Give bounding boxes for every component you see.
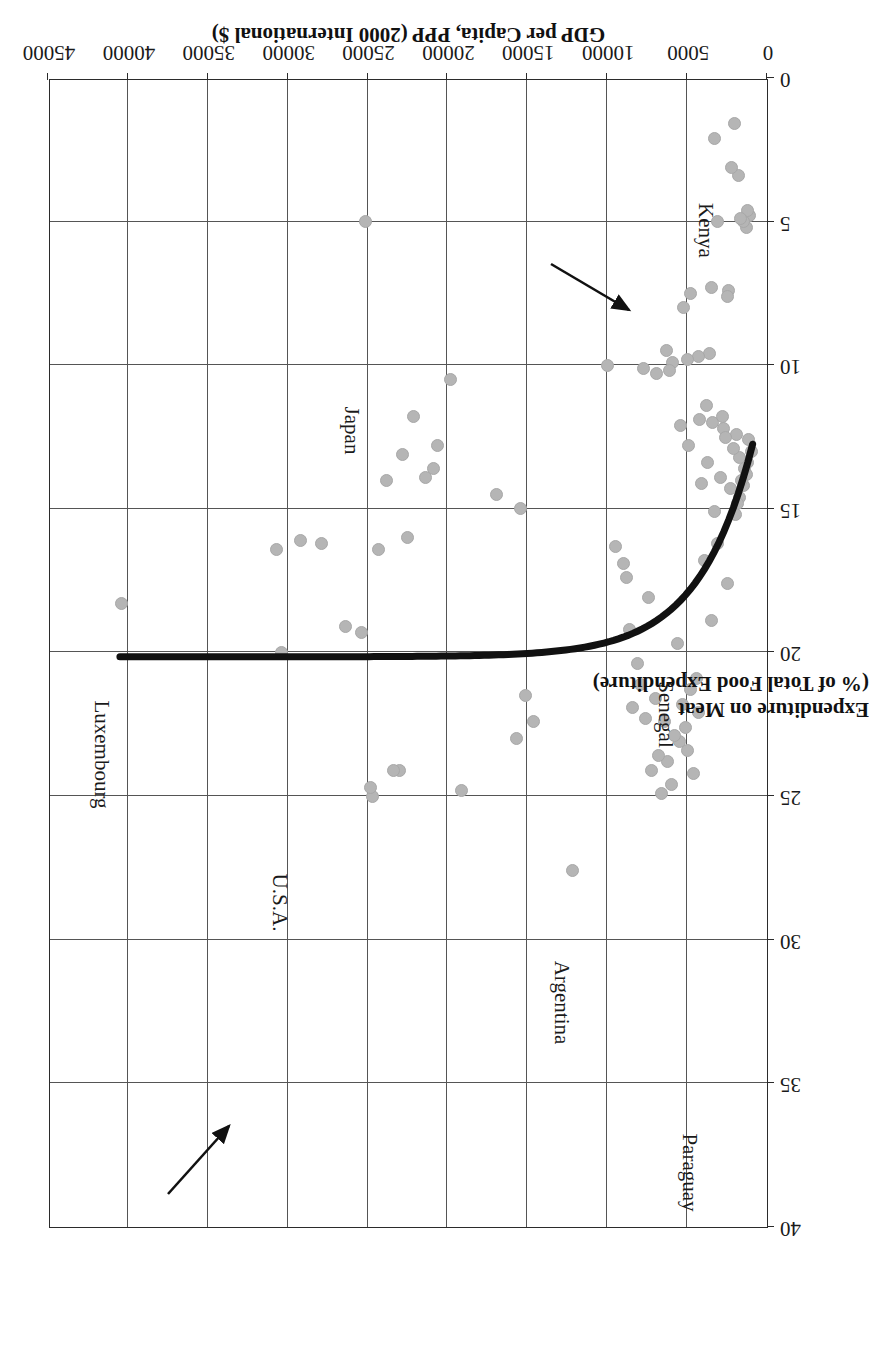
- trend-curve-layer: [48, 78, 767, 1227]
- y-axis-tick-label: 20: [780, 641, 818, 666]
- y-axis-tick: [767, 508, 774, 509]
- country-label-senegal: Senegal: [653, 681, 678, 747]
- country-label-argentina: Argentina: [549, 961, 574, 1045]
- y-axis-tick: [767, 1082, 774, 1083]
- y-axis-tick: [767, 364, 774, 365]
- y-axis-tick-label: 35: [780, 1072, 818, 1097]
- y-axis-tick: [767, 652, 774, 653]
- country-label-luxembourg: Luxembourg: [90, 700, 115, 808]
- country-label-paraguay: Paraguay: [677, 1134, 702, 1212]
- y-axis-tick-label: 0: [780, 67, 818, 92]
- y-axis-tick: [767, 221, 774, 222]
- y-axis-title-line2: (% of Total Food Expenditure): [779, 671, 869, 697]
- y-axis-tick-label: 40: [780, 1216, 818, 1241]
- country-label-usa: U.S.A.: [267, 873, 292, 931]
- y-axis-tick: [767, 939, 774, 940]
- y-axis-tick-label: 30: [780, 928, 818, 953]
- y-axis-tick: [767, 77, 774, 78]
- y-axis-tick-label: 5: [780, 210, 818, 235]
- y-axis-tick: [767, 1226, 774, 1227]
- plot-area: [49, 79, 768, 1228]
- y-axis-title: Expenditure on Meat (% of Total Food Exp…: [779, 671, 869, 724]
- chart-figure: 0500010000150002000025000300003500040000…: [0, 0, 869, 1363]
- y-axis-tick-label: 25: [780, 785, 818, 810]
- y-axis-title-line1: Expenditure on Meat: [779, 697, 869, 723]
- y-axis-tick-label: 15: [780, 497, 818, 522]
- y-axis-tick: [767, 795, 774, 796]
- y-axis-tick-label: 10: [780, 354, 818, 379]
- x-axis-title: GDP per Capita, PPP (2000 International …: [49, 22, 768, 47]
- country-label-kenya: Kenya: [693, 203, 718, 258]
- country-label-japan: Japan: [338, 406, 363, 454]
- trend-curve: [120, 444, 753, 657]
